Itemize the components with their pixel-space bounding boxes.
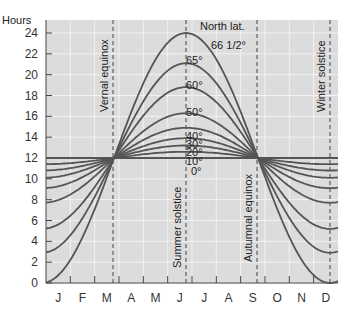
series-label: 50°: [186, 106, 203, 118]
x-tick-label: S: [249, 291, 257, 305]
x-tick-label: M: [151, 291, 161, 305]
y-tick-label: 2: [31, 255, 38, 269]
autumnal-equinox-label: Autumnal equinox: [242, 173, 254, 262]
x-tick-label: N: [297, 291, 306, 305]
y-tick-label: 14: [25, 130, 39, 144]
legend-title: North lat.: [200, 20, 245, 32]
x-tick-label: J: [177, 291, 183, 305]
y-tick-label: 18: [25, 89, 39, 103]
y-tick-label: 16: [25, 109, 39, 123]
x-tick-label: J: [55, 291, 61, 305]
x-tick-label: A: [224, 291, 232, 305]
summer-solstice-label: Summer solstice: [171, 187, 183, 268]
y-tick-label: 24: [25, 26, 39, 40]
series-label: 40°: [186, 130, 203, 142]
y-tick-label: 4: [31, 234, 38, 248]
y-tick-label: 22: [25, 47, 39, 61]
series-label: 60°: [186, 79, 203, 91]
y-tick-label: 6: [31, 214, 38, 228]
y-axis-title: Hours: [2, 14, 32, 26]
x-tick-label: A: [127, 291, 135, 305]
y-tick-label: 8: [31, 193, 38, 207]
series-label: 65°: [186, 54, 203, 66]
daylength-chart: 024681012141618202224JFMAMJJASONDHoursVe…: [0, 0, 357, 335]
y-tick-label: 20: [25, 68, 39, 82]
winter-solstice-label: Winter solstice: [315, 40, 327, 112]
x-tick-label: O: [272, 291, 281, 305]
x-tick-label: M: [102, 291, 112, 305]
y-tick-label: 0: [31, 276, 38, 290]
y-tick-label: 10: [25, 172, 39, 186]
x-tick-label: D: [321, 291, 330, 305]
x-tick-label: F: [79, 291, 86, 305]
y-tick-label: 12: [25, 151, 39, 165]
x-tick-label: J: [201, 291, 207, 305]
vernal-equinox-label: Vernal equinox: [98, 39, 110, 112]
series-label: 66 1/2°: [211, 39, 246, 51]
